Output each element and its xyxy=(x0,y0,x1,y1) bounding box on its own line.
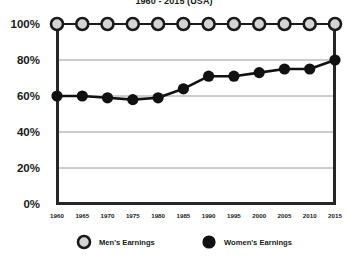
womens-point-1975 xyxy=(127,94,138,105)
x-tick-label-2000: 2000 xyxy=(252,212,266,219)
y-tick-label-0: 0% xyxy=(23,198,40,210)
legend-item-mens-earnings: Men's Earnings xyxy=(78,236,155,248)
x-tick-label-2015: 2015 xyxy=(328,212,342,219)
x-tick-label-1960: 1960 xyxy=(50,212,64,219)
womens-point-2010 xyxy=(304,63,315,74)
legend-label-womens-earnings: Women's Earnings xyxy=(224,238,292,247)
mens-point-1975 xyxy=(127,18,139,30)
y-tick-label-60: 60% xyxy=(17,90,40,102)
legend-item-womens-earnings: Women's Earnings xyxy=(202,235,292,248)
legend-label-mens-earnings: Men's Earnings xyxy=(99,238,155,247)
legend-swatch-womens-circle-icon xyxy=(202,235,215,248)
x-tick-label-1980: 1980 xyxy=(151,212,165,219)
womens-point-1960 xyxy=(51,90,62,101)
x-tick-label-1975: 1975 xyxy=(126,212,140,219)
x-tick-label-1970: 1970 xyxy=(101,212,115,219)
legend-swatch-mens-circle-icon xyxy=(78,236,90,248)
chart-plot-area: 100% 80% 60% 40% 20% 0% xyxy=(0,0,348,257)
x-tick-label-2005: 2005 xyxy=(278,212,292,219)
mens-point-1980 xyxy=(152,18,164,30)
mens-point-2000 xyxy=(253,18,265,30)
womens-point-2005 xyxy=(279,63,290,74)
y-axis-labels: 100% 80% 60% 40% 20% 0% xyxy=(11,18,40,210)
womens-point-1990 xyxy=(203,71,214,82)
y-tick-label-40: 40% xyxy=(17,126,40,138)
y-tick-label-100: 100% xyxy=(11,18,40,30)
earnings-gap-chart: 1960 - 2015 (USA) 100% 80% 60% 40% 20% 0… xyxy=(0,0,348,257)
x-axis-labels: 1960 1965 1970 1975 1980 1985 1990 1995 … xyxy=(50,212,342,219)
mens-point-1995 xyxy=(228,18,240,30)
x-tick-label-2010: 2010 xyxy=(303,212,317,219)
mens-point-1960 xyxy=(51,18,63,30)
x-tick-label-1985: 1985 xyxy=(177,212,191,219)
womens-point-1980 xyxy=(153,92,164,103)
mens-point-1990 xyxy=(203,18,215,30)
mens-point-2010 xyxy=(304,18,316,30)
mens-point-1970 xyxy=(102,18,114,30)
mens-point-1985 xyxy=(177,18,189,30)
womens-point-1970 xyxy=(102,92,113,103)
mens-point-2015 xyxy=(329,18,341,30)
womens-point-2015 xyxy=(329,54,340,65)
chart-legend: Men's Earnings Women's Earnings xyxy=(78,235,292,248)
womens-point-2000 xyxy=(254,67,265,78)
plot-background xyxy=(57,24,335,204)
mens-point-2005 xyxy=(279,18,291,30)
y-tick-label-80: 80% xyxy=(17,54,40,66)
x-tick-label-1995: 1995 xyxy=(227,212,241,219)
womens-point-1965 xyxy=(77,90,88,101)
x-tick-label-1990: 1990 xyxy=(202,212,216,219)
mens-point-1965 xyxy=(76,18,88,30)
womens-point-1995 xyxy=(228,71,239,82)
womens-point-1985 xyxy=(178,83,189,94)
y-tick-label-20: 20% xyxy=(17,162,40,174)
x-tick-label-1965: 1965 xyxy=(75,212,89,219)
